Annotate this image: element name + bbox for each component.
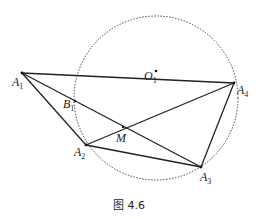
point-b1	[74, 100, 76, 102]
circumcircle	[74, 16, 238, 180]
label-a3: A3	[199, 170, 211, 186]
point-a2	[85, 144, 88, 147]
label-a1: A1	[11, 75, 23, 91]
point-o1	[155, 70, 158, 73]
point-a3	[200, 166, 203, 169]
segment-a1-a4	[22, 73, 234, 83]
segment-a1-a3	[22, 73, 201, 167]
point-a4	[233, 82, 236, 85]
segment-a2-a3	[86, 145, 201, 167]
point-m	[122, 126, 124, 128]
point-a1	[21, 72, 24, 75]
segment-a1-a2	[22, 73, 86, 145]
label-a2: A2	[73, 145, 85, 161]
segments	[22, 73, 234, 167]
segment-a2-a4	[86, 83, 234, 145]
geometry-figure: A1 B1 A2 M O1 A4 A3 图 4.6	[0, 0, 264, 219]
label-m: M	[115, 131, 127, 145]
figure-caption: 图 4.6	[113, 199, 145, 212]
segment-a3-a4	[201, 83, 234, 167]
label-a4: A4	[236, 83, 248, 99]
